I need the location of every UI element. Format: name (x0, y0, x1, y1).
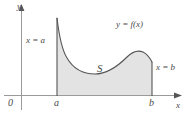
region-s-shading (57, 18, 152, 96)
x-axis-label: x (176, 101, 180, 110)
origin-label: 0 (8, 98, 13, 108)
region-label-s: S (97, 63, 103, 74)
tick-label-b: b (149, 98, 154, 108)
figure-area-under-curve: y x 0 a b x = a x = b y = f(x) S (0, 0, 195, 123)
x-axis-arrow-icon (174, 93, 182, 99)
right-boundary-label: x = b (156, 63, 175, 72)
curve-function-label: y = f(x) (116, 20, 143, 29)
y-axis-label: y (17, 2, 21, 11)
left-boundary-label: x = a (26, 36, 45, 45)
tick-label-a: a (54, 98, 59, 108)
